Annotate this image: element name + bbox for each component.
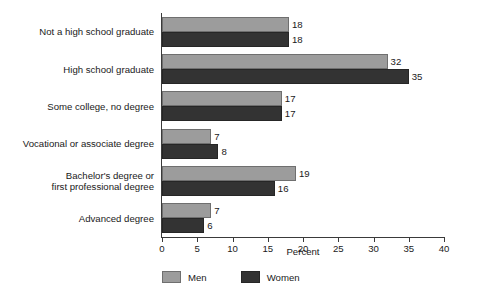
category-label-5: Advanced degree <box>79 213 154 224</box>
bar-value-women-1: 35 <box>412 71 423 82</box>
bar-women-4 <box>162 181 275 196</box>
legend-swatch-men-icon <box>162 271 181 283</box>
bar-value-men-5: 7 <box>214 205 219 216</box>
bar-value-women-4: 16 <box>278 183 289 194</box>
bar-men-1 <box>162 54 388 69</box>
category-label-0: Not a high school graduate <box>39 26 154 37</box>
bar-women-0 <box>162 32 289 47</box>
legend-label-women: Women <box>267 272 300 283</box>
legend-item-women[interactable]: Women <box>241 271 300 283</box>
legend-label-men: Men <box>188 272 207 283</box>
x-tick-25 <box>338 238 339 242</box>
bar-chart: Not a high school graduate High school g… <box>0 0 478 296</box>
bar-value-men-4: 19 <box>299 168 310 179</box>
category-axis-labels: Not a high school graduate High school g… <box>0 13 158 237</box>
category-label-3: Vocational or associate degree <box>23 138 154 149</box>
x-tick-30 <box>374 238 375 242</box>
bar-value-men-3: 7 <box>214 131 219 142</box>
bar-value-men-0: 18 <box>292 19 303 30</box>
bar-men-0 <box>162 17 289 32</box>
bar-value-men-1: 32 <box>391 56 402 67</box>
bar-women-5 <box>162 218 204 233</box>
x-axis-title: Percent <box>162 246 444 257</box>
legend-item-men[interactable]: Men <box>162 271 207 283</box>
x-tick-0 <box>162 238 163 242</box>
category-label-2: Some college, no degree <box>47 101 154 112</box>
bar-value-men-2: 17 <box>285 93 296 104</box>
bar-value-women-2: 17 <box>285 108 296 119</box>
bar-women-2 <box>162 106 282 121</box>
x-tick-10 <box>233 238 234 242</box>
bar-value-women-3: 8 <box>221 146 226 157</box>
bar-men-5 <box>162 203 211 218</box>
bar-women-3 <box>162 144 218 159</box>
category-label-1: High school graduate <box>63 64 154 75</box>
x-tick-40 <box>444 238 445 242</box>
x-tick-20 <box>303 238 304 242</box>
x-tick-5 <box>197 238 198 242</box>
bar-women-1 <box>162 69 409 84</box>
category-label-4: Bachelor's degree or first professional … <box>52 170 154 192</box>
plot-area: 0510152025303540 18183235171778191676 <box>162 13 444 237</box>
bar-men-4 <box>162 166 296 181</box>
legend-swatch-women-icon <box>241 271 260 283</box>
bar-men-3 <box>162 129 211 144</box>
bar-value-women-5: 6 <box>207 220 212 231</box>
x-tick-15 <box>268 238 269 242</box>
bar-value-women-0: 18 <box>292 34 303 45</box>
bar-men-2 <box>162 91 282 106</box>
chart-legend: Men Women <box>162 268 444 286</box>
x-tick-35 <box>409 238 410 242</box>
